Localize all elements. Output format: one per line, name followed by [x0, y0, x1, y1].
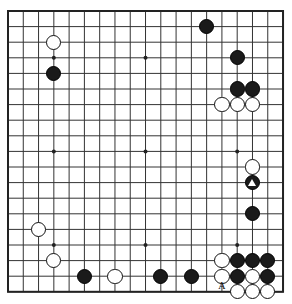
- star-point: [235, 243, 239, 247]
- white-stone[interactable]: [230, 97, 245, 112]
- white-stone[interactable]: [31, 222, 46, 237]
- white-stone[interactable]: [245, 159, 260, 174]
- star-point: [235, 149, 239, 153]
- black-stone[interactable]: [184, 269, 199, 284]
- black-stone[interactable]: [230, 81, 245, 96]
- star-point: [52, 56, 56, 60]
- black-stone[interactable]: [230, 253, 245, 268]
- star-point: [144, 149, 148, 153]
- black-stone[interactable]: [77, 269, 92, 284]
- star-point: [144, 243, 148, 247]
- go-diagram: A: [0, 0, 292, 304]
- black-stone[interactable]: [230, 269, 245, 284]
- triangle-mark-icon: [248, 179, 256, 186]
- white-stone[interactable]: [245, 269, 260, 284]
- black-stone[interactable]: [260, 269, 275, 284]
- white-stone[interactable]: [107, 269, 122, 284]
- star-point: [52, 149, 56, 153]
- star-point: [52, 243, 56, 247]
- white-stone[interactable]: [214, 253, 229, 268]
- star-point: [144, 56, 148, 60]
- black-stone[interactable]: [245, 81, 260, 96]
- point-label: A: [216, 281, 228, 291]
- white-stone[interactable]: [214, 97, 229, 112]
